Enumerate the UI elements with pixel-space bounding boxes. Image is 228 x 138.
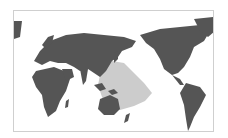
world-map	[14, 11, 214, 132]
south-america-landmass	[180, 83, 206, 131]
map-frame	[13, 10, 214, 132]
india	[80, 69, 88, 85]
new-zealand	[124, 113, 130, 123]
madagascar	[65, 99, 69, 108]
greenland-left-fragment	[14, 21, 22, 39]
central-america	[172, 75, 184, 85]
north-america-landmass	[140, 25, 210, 75]
japan	[114, 51, 118, 63]
